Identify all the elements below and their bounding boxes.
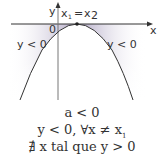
svg-text:x: x bbox=[84, 7, 91, 20]
svg-text:2: 2 bbox=[91, 9, 98, 22]
svg-text:x: x bbox=[61, 7, 68, 20]
svg-text:1: 1 bbox=[68, 13, 72, 20]
condition-no-positive: ∄ x tal que y > 0 bbox=[0, 139, 164, 155]
x-axis-label: x bbox=[150, 24, 157, 37]
origin-label: 0 bbox=[49, 23, 56, 36]
svg-text:=: = bbox=[74, 7, 83, 20]
right-region-label: y < 0 bbox=[107, 38, 137, 51]
condition-a-negative: a < 0 bbox=[0, 105, 164, 121]
y-axis-arrow-icon bbox=[56, 2, 61, 8]
vertex-point bbox=[75, 22, 79, 26]
vertex-label: x 1 = x 2 bbox=[61, 7, 98, 22]
left-region-label: y < 0 bbox=[17, 38, 47, 51]
y-axis-label: y bbox=[49, 5, 56, 18]
